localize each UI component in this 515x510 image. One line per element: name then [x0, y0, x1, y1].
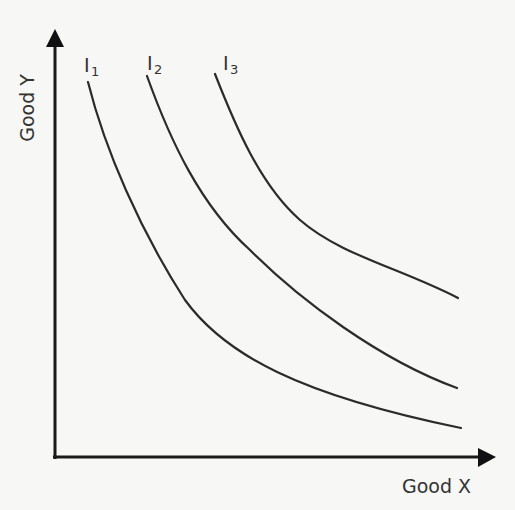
indifference-curve-i3 — [215, 74, 458, 298]
curve-label-i3-base: I — [223, 52, 229, 74]
curve-label-i3: I 3 — [223, 52, 238, 77]
curve-label-i2: I 2 — [147, 52, 162, 77]
curve-label-i1-subscript: 1 — [91, 64, 99, 79]
y-axis-arrow-icon — [46, 29, 64, 47]
indifference-curve-i2 — [147, 76, 457, 388]
indifference-curve-diagram: Good Y Good X I 1 I 2 I 3 — [0, 0, 515, 510]
curve-label-i1-base: I — [84, 54, 90, 76]
y-axis — [46, 29, 64, 459]
curve-label-i1: I 1 — [84, 54, 99, 79]
curve-label-i2-base: I — [147, 52, 153, 74]
curve-label-i3-subscript: 3 — [230, 62, 238, 77]
y-axis-label: Good Y — [16, 74, 38, 142]
indifference-curve-i1 — [88, 82, 461, 428]
curve-label-i2-subscript: 2 — [154, 62, 162, 77]
x-axis — [53, 448, 496, 467]
x-axis-label: Good X — [402, 475, 471, 497]
x-axis-arrow-icon — [478, 448, 496, 467]
